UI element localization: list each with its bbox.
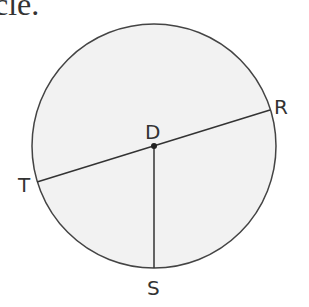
circle-diagram: D R T S <box>0 0 309 307</box>
label-S: S <box>147 276 160 300</box>
label-T: T <box>17 173 31 197</box>
label-R: R <box>274 95 288 119</box>
label-D: D <box>145 120 160 144</box>
